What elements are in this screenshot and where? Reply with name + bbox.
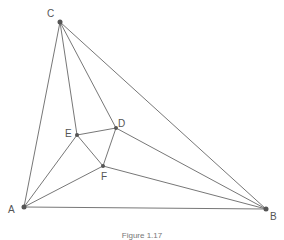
label-D: D <box>118 118 125 129</box>
point-F <box>101 164 105 168</box>
label-A: A <box>8 204 15 215</box>
segment-AE <box>24 135 77 207</box>
segment-DE <box>77 128 116 135</box>
segment-CA <box>24 22 60 207</box>
label-B: B <box>270 211 277 222</box>
point-E <box>75 133 79 137</box>
segment-BC <box>60 22 266 209</box>
point-A <box>22 205 27 210</box>
segment-DF <box>103 128 116 166</box>
figure-caption: Figure 1.17 <box>0 231 284 240</box>
segment-AB <box>24 207 266 209</box>
geometry-diagram: C D E F A B <box>0 0 284 240</box>
label-F: F <box>101 171 107 182</box>
point-B <box>264 207 269 212</box>
label-E: E <box>65 128 72 139</box>
label-C: C <box>47 8 54 19</box>
segment-EF <box>77 135 103 166</box>
segment-AF <box>24 166 103 207</box>
segment-BD <box>116 128 266 209</box>
segment-BF <box>103 166 266 209</box>
point-C <box>58 20 63 25</box>
